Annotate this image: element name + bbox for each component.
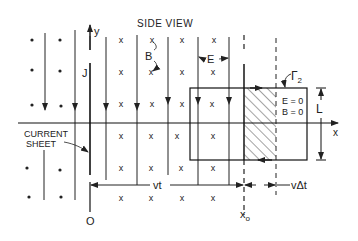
- svg-text:x: x: [211, 67, 216, 77]
- origin-label: O: [86, 215, 95, 227]
- svg-text:x: x: [149, 67, 154, 77]
- svg-text:x: x: [180, 99, 185, 109]
- current-sheet-pointer: [64, 142, 88, 152]
- magnetic-field-label: B: [145, 50, 152, 62]
- svg-text:x: x: [150, 35, 155, 45]
- side-view-diagram: SIDE VIEW y: [0, 0, 358, 241]
- x-axis-label: x: [333, 127, 338, 138]
- svg-text:x: x: [211, 163, 216, 173]
- svg-text:x: x: [119, 131, 124, 141]
- svg-text:x: x: [180, 35, 185, 45]
- field-lines: [44, 30, 229, 200]
- current-sheet-label-2: SHEET: [26, 139, 57, 149]
- svg-text:x: x: [210, 99, 215, 109]
- loop-height-label: L: [316, 102, 323, 116]
- contour-label: Γ2: [291, 69, 303, 85]
- svg-text:x: x: [211, 193, 216, 203]
- svg-text:x: x: [212, 35, 217, 45]
- svg-text:x: x: [211, 131, 216, 141]
- region-b-zero: B = 0: [282, 107, 303, 117]
- e-pointer-left: [199, 57, 205, 60]
- svg-text:x: x: [119, 163, 124, 173]
- svg-text:x: x: [150, 99, 155, 109]
- electric-field-label: E: [207, 53, 214, 65]
- svg-text:x: x: [180, 67, 185, 77]
- loop-height-dimension: [316, 88, 326, 160]
- svg-text:x: x: [149, 163, 154, 173]
- e-pointer-right: [219, 58, 228, 59]
- current-sheet-label-1: CURRENT: [24, 129, 69, 139]
- b-pointer-down: [153, 61, 157, 71]
- wavefront-position-label: xo: [240, 208, 251, 223]
- region-e-zero: E = 0: [282, 96, 303, 106]
- svg-text:x: x: [180, 193, 185, 203]
- svg-text:x: x: [119, 99, 124, 109]
- current-density-label: J: [82, 67, 88, 79]
- vdt-label: vΔt: [291, 179, 307, 191]
- diagram-title: SIDE VIEW: [137, 18, 193, 29]
- svg-text:x: x: [179, 163, 184, 173]
- svg-text:x: x: [119, 35, 124, 45]
- vt-label: vt: [153, 179, 162, 191]
- y-axis-label: y: [94, 25, 100, 37]
- svg-text:x: x: [149, 193, 154, 203]
- svg-text:x: x: [119, 67, 124, 77]
- svg-text:x: x: [149, 131, 154, 141]
- hatched-region: [244, 88, 276, 160]
- svg-text:x: x: [119, 193, 124, 203]
- svg-text:x: x: [175, 131, 180, 141]
